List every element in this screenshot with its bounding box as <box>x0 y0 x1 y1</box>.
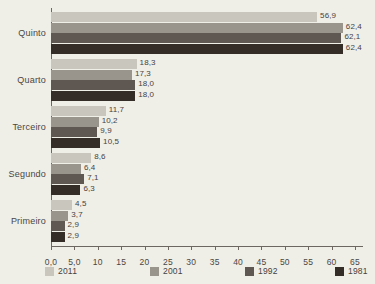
bar-value-label: 7,1 <box>87 173 98 183</box>
bar-row[interactable]: 2,9 <box>51 221 363 231</box>
legend-swatch-icon <box>45 267 54 276</box>
bar-row[interactable]: 62,1 <box>51 33 363 43</box>
bar-value-label: 18,0 <box>138 79 154 89</box>
bar-chart: 56,962,462,162,418,317,318,018,011,710,2… <box>0 0 375 284</box>
bar[interactable] <box>51 138 100 148</box>
category-label: Quarto <box>17 75 46 85</box>
bar[interactable] <box>51 23 343 33</box>
bar[interactable] <box>51 33 341 43</box>
bar-row[interactable]: 7,1 <box>51 174 363 184</box>
chart-legend: 2011200119921981 <box>0 266 375 282</box>
bar-value-label: 4,5 <box>75 199 86 209</box>
legend-item-1981[interactable]: 1981 <box>335 266 368 276</box>
bar-group: 56,962,462,162,4 <box>51 12 363 55</box>
bar[interactable] <box>51 185 80 195</box>
bar[interactable] <box>51 80 135 90</box>
legend-swatch-icon <box>150 267 159 276</box>
bar-row[interactable]: 4,5 <box>51 200 363 210</box>
legend-item-2011[interactable]: 2011 <box>45 266 77 276</box>
x-tick <box>51 246 52 250</box>
bar[interactable] <box>51 232 65 242</box>
bar-row[interactable]: 9,9 <box>51 127 363 137</box>
x-tick <box>308 246 309 250</box>
x-tick <box>261 246 262 250</box>
bar[interactable] <box>51 174 84 184</box>
bar-row[interactable]: 56,9 <box>51 12 363 22</box>
legend-label: 1981 <box>348 266 368 276</box>
x-tick <box>74 246 75 250</box>
x-tick <box>332 246 333 250</box>
x-tick <box>191 246 192 250</box>
legend-swatch-icon <box>335 267 344 276</box>
bar-row[interactable]: 10,5 <box>51 138 363 148</box>
legend-swatch-icon <box>245 267 254 276</box>
bar-value-label: 17,3 <box>135 69 151 79</box>
bar[interactable] <box>51 106 106 116</box>
bar-value-label: 56,9 <box>320 11 336 21</box>
bar-value-label: 62,4 <box>346 22 362 32</box>
legend-label: 1992 <box>258 266 278 276</box>
category-label: Terceiro <box>12 122 46 132</box>
bar-row[interactable]: 6,3 <box>51 185 363 195</box>
x-tick <box>98 246 99 250</box>
legend-label: 2001 <box>163 266 183 276</box>
bar-row[interactable]: 11,7 <box>51 106 363 116</box>
bar-value-label: 9,9 <box>100 126 111 136</box>
bar-value-label: 6,4 <box>84 163 95 173</box>
bar-row[interactable]: 62,4 <box>51 23 363 33</box>
bar-value-label: 11,7 <box>109 105 124 115</box>
bar-row[interactable]: 18,3 <box>51 59 363 69</box>
bar-group: 11,710,29,910,5 <box>51 106 363 149</box>
x-tick <box>215 246 216 250</box>
bar[interactable] <box>51 200 72 210</box>
bar[interactable] <box>51 153 91 163</box>
x-tick <box>238 246 239 250</box>
x-tick <box>355 246 356 250</box>
bar-row[interactable]: 18,0 <box>51 91 363 101</box>
x-tick <box>168 246 169 250</box>
bar-value-label: 10,5 <box>103 137 119 147</box>
bar[interactable] <box>51 211 68 221</box>
bar-row[interactable]: 10,2 <box>51 117 363 127</box>
bar-group: 18,317,318,018,0 <box>51 59 363 102</box>
bar-row[interactable]: 18,0 <box>51 80 363 90</box>
bar-group: 4,53,72,92,9 <box>51 200 363 243</box>
bar-value-label: 18,3 <box>140 58 156 68</box>
legend-label: 2011 <box>58 266 77 276</box>
bar[interactable] <box>51 221 65 231</box>
bar-value-label: 6,3 <box>83 184 94 194</box>
bar[interactable] <box>51 91 135 101</box>
bar-value-label: 2,9 <box>68 231 79 241</box>
bar[interactable] <box>51 44 343 54</box>
bar[interactable] <box>51 164 81 174</box>
bar[interactable] <box>51 127 97 137</box>
bar-value-label: 18,0 <box>138 90 154 100</box>
bar-value-label: 8,6 <box>94 152 105 162</box>
bar-row[interactable]: 6,4 <box>51 164 363 174</box>
legend-item-1992[interactable]: 1992 <box>245 266 278 276</box>
bar-row[interactable]: 3,7 <box>51 211 363 221</box>
bar[interactable] <box>51 70 132 80</box>
bar-value-label: 62,1 <box>344 32 360 42</box>
x-tick <box>121 246 122 250</box>
x-tick <box>145 246 146 250</box>
bar-value-label: 2,9 <box>68 220 79 230</box>
bar-row[interactable]: 17,3 <box>51 70 363 80</box>
bar-row[interactable]: 2,9 <box>51 232 363 242</box>
bar-value-label: 10,2 <box>102 116 118 126</box>
category-label: Quinto <box>18 28 46 38</box>
bar[interactable] <box>51 59 137 69</box>
bar-value-label: 62,4 <box>346 43 362 53</box>
bar[interactable] <box>51 117 99 127</box>
bar-value-label: 3,7 <box>71 210 82 220</box>
category-label: Segundo <box>9 169 46 179</box>
x-tick <box>285 246 286 250</box>
bar-group: 8,66,47,16,3 <box>51 153 363 196</box>
legend-item-2001[interactable]: 2001 <box>150 266 183 276</box>
bar-row[interactable]: 62,4 <box>51 44 363 54</box>
category-label: Primeiro <box>11 216 46 226</box>
bar[interactable] <box>51 12 317 22</box>
bar-row[interactable]: 8,6 <box>51 153 363 163</box>
plot-area: 56,962,462,162,418,317,318,018,011,710,2… <box>51 8 363 246</box>
